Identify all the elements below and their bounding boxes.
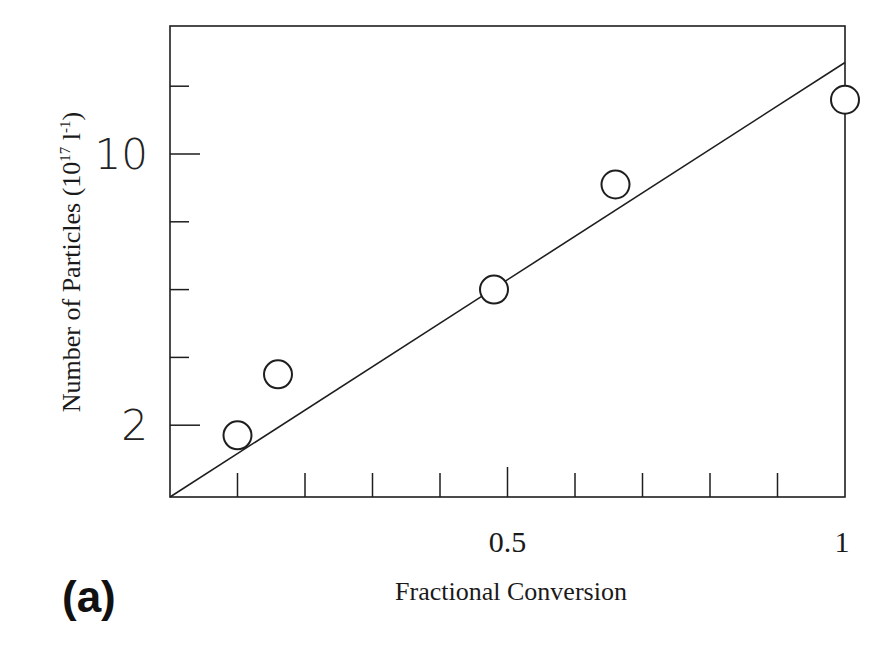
y-tick-label: 2 [121, 401, 148, 450]
data-point-circle [264, 360, 292, 388]
regression-line [170, 62, 845, 497]
y-axis-label: Number of Particles (1017 l-1) [57, 112, 86, 412]
data-points [224, 86, 860, 450]
chart: 0.51210 Fractional Conversion Number of … [0, 0, 892, 658]
data-point-circle [224, 421, 252, 449]
data-point-circle [480, 276, 508, 304]
x-axis-label: Fractional Conversion [395, 577, 627, 606]
y-tick-label: 10 [95, 130, 148, 179]
plot-frame [170, 26, 845, 497]
axis-ticks [170, 86, 778, 497]
data-point-circle [831, 86, 859, 114]
data-point-circle [602, 171, 630, 199]
plot-border [170, 26, 845, 497]
tick-labels: 0.51210 [95, 130, 850, 558]
panel-label: (a) [62, 572, 116, 621]
fit-line [170, 62, 845, 497]
x-tick-label: 0.5 [489, 525, 527, 558]
x-tick-label: 1 [835, 525, 850, 558]
